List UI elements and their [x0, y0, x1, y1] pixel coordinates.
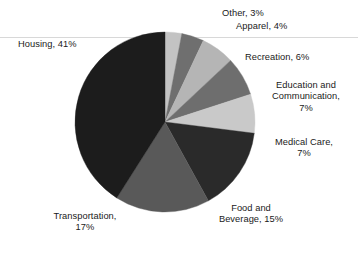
slice-label-medical-care: Medical Care, 7%: [256, 137, 352, 160]
slice-label-apparel: Apparel, 4%: [236, 21, 287, 32]
slice-label-other: Other, 3%: [222, 8, 264, 19]
slice-label-food-and-beverage: Food and Beverage, 15%: [196, 203, 306, 226]
slice-label-housing: Housing, 41%: [18, 39, 76, 50]
pie-slice-group: [75, 32, 255, 212]
slice-label-transportation: Transportation, 17%: [28, 211, 142, 234]
slice-label-recreation: Recreation, 6%: [245, 52, 309, 63]
pie-chart: Other, 3% Apparel, 4% Housing, 41% Recre…: [0, 0, 358, 253]
slice-label-education-and-communication: Education and Communication, 7%: [258, 80, 354, 114]
